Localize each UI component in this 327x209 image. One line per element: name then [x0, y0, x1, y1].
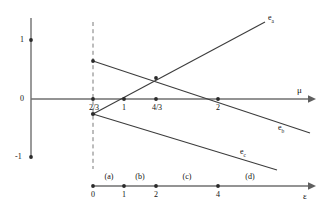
epsilon-axis-label: ε — [303, 192, 307, 201]
figure-canvas: 1 0 -1 2/3 1 4/3 2 μ ea eb ec (a) (b) (c… — [0, 0, 327, 209]
epsilon-tick-label-2: 2 — [154, 191, 158, 199]
mu-tick-marker-1 — [122, 97, 126, 101]
mu-axis-arrow — [308, 95, 316, 103]
mu-tick-label-1: 1 — [122, 104, 126, 112]
epsilon-region-label-a: (a) — [105, 173, 114, 181]
epsilon-tick-marker-0 — [91, 184, 95, 188]
vertical-tick-label-0: 0 — [20, 95, 24, 103]
curve-label-e-c-sub: c — [244, 152, 246, 158]
curve-label-e-c: ec — [240, 148, 246, 158]
plot-vector-graphics — [0, 0, 327, 209]
epsilon-tick-marker-2 — [154, 184, 158, 188]
vertical-tick-marker-neg1 — [29, 155, 33, 159]
curve-label-e-a-sub: a — [272, 18, 274, 24]
vertical-tick-label-1: 1 — [20, 36, 24, 44]
epsilon-region-label-c: (c) — [183, 173, 192, 181]
mu-tick-label-2: 2 — [216, 104, 220, 112]
epsilon-region-label-d: (d) — [245, 173, 254, 181]
vertical-tick-marker-1 — [29, 38, 33, 42]
curve-label-e-b-sub: b — [282, 128, 285, 134]
node-marker-crossing-4-3 — [154, 76, 158, 80]
node-marker-e-b-start — [91, 59, 95, 63]
curve-e-a — [93, 22, 265, 114]
mu-tick-marker-2 — [216, 97, 220, 101]
vertical-tick-label-minus-1: -1 — [15, 153, 22, 161]
mu-tick-label-four-thirds: 4/3 — [152, 104, 162, 112]
epsilon-axis-arrow — [308, 182, 316, 190]
epsilon-tick-marker-4 — [216, 184, 220, 188]
curve-e-c — [93, 114, 277, 170]
curve-label-e-b: eb — [278, 124, 284, 134]
mu-tick-marker-2-3 — [91, 97, 95, 101]
mu-axis-label: μ — [297, 86, 302, 95]
mu-tick-marker-4-3 — [154, 97, 158, 101]
epsilon-region-label-b: (b) — [135, 173, 144, 181]
mu-tick-label-two-thirds: 2/3 — [89, 104, 99, 112]
node-marker-branch-point — [91, 112, 95, 116]
epsilon-tick-label-1: 1 — [122, 191, 126, 199]
curve-label-e-a: ea — [268, 14, 274, 24]
epsilon-tick-marker-1 — [122, 184, 126, 188]
epsilon-tick-label-4: 4 — [216, 191, 220, 199]
epsilon-tick-label-0: 0 — [91, 191, 95, 199]
